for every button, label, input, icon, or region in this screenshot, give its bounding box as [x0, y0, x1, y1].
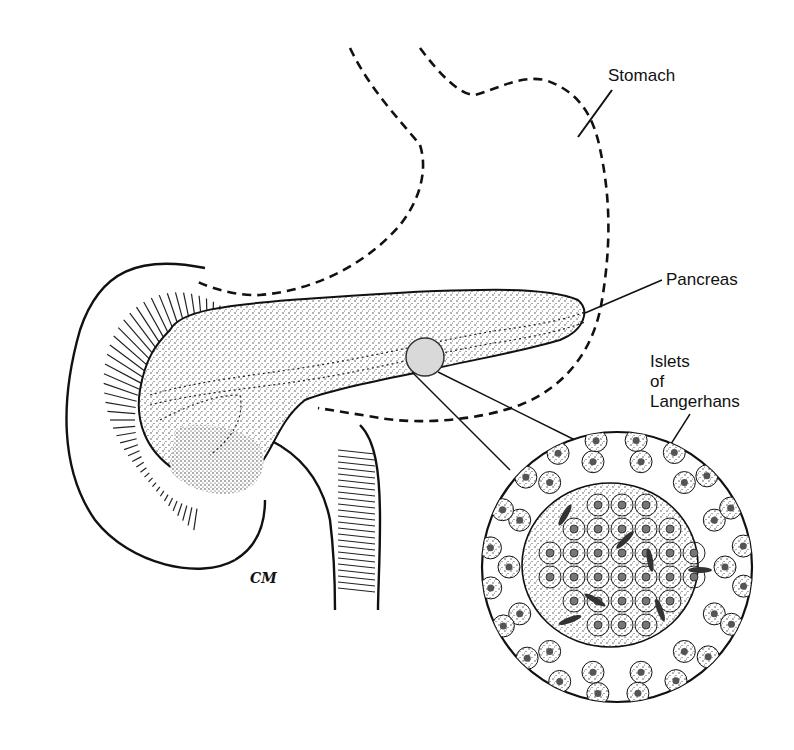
- cell-nucleus: [499, 506, 506, 513]
- cell-nucleus: [728, 621, 735, 628]
- hatch-line: [338, 456, 375, 460]
- cell-nucleus: [705, 653, 712, 660]
- cell-nucleus: [703, 472, 710, 479]
- cell-nucleus: [618, 525, 626, 533]
- cell-nucleus: [570, 525, 578, 533]
- hatch-line: [104, 374, 140, 390]
- cell-nucleus: [690, 573, 698, 581]
- hatch-line: [120, 439, 136, 443]
- hatch-line: [338, 522, 375, 526]
- hatch-line: [140, 468, 146, 472]
- cell-nucleus: [618, 501, 626, 509]
- cell-nucleus: [638, 458, 645, 465]
- magnified-islet: [479, 429, 754, 704]
- cell-nucleus: [487, 544, 494, 551]
- hatch-line: [338, 450, 375, 454]
- cell-nucleus: [589, 669, 596, 676]
- cell-nucleus: [546, 573, 554, 581]
- cell-nucleus: [642, 597, 650, 605]
- hatch-line: [105, 364, 141, 383]
- cell-nucleus: [556, 678, 563, 685]
- hatch-line: [136, 462, 143, 467]
- cell-nucleus: [740, 543, 747, 550]
- cell-nucleus: [711, 517, 718, 524]
- cell-nucleus: [516, 610, 523, 617]
- cell-nucleus: [666, 597, 674, 605]
- cell-nucleus: [594, 549, 602, 557]
- capillary: [688, 567, 712, 573]
- cell-nucleus: [500, 622, 507, 629]
- stomach-leader: [578, 90, 612, 137]
- hatch-line: [169, 498, 173, 506]
- hatch-line: [338, 492, 375, 496]
- cell-nucleus: [711, 610, 718, 617]
- hatch-line: [338, 474, 375, 478]
- hatch-line: [338, 468, 375, 472]
- hatch-line: [188, 507, 192, 525]
- hatch-line: [173, 501, 177, 511]
- cell-nucleus: [634, 690, 641, 697]
- cell-nucleus: [594, 525, 602, 533]
- hatch-line: [338, 510, 375, 514]
- cell-nucleus: [570, 549, 578, 557]
- hatch-line: [104, 393, 136, 401]
- hatch-line: [338, 558, 375, 562]
- hatch-line: [156, 487, 159, 492]
- hatch-line: [128, 451, 139, 456]
- hatch-line: [124, 445, 138, 450]
- hatch-line: [113, 426, 135, 428]
- cell-nucleus: [642, 621, 650, 629]
- cell-nucleus: [740, 583, 747, 590]
- hatch-line: [338, 540, 375, 544]
- label-stomach: Stomach: [608, 66, 675, 86]
- cell-nucleus: [633, 437, 640, 444]
- hatch-line: [338, 504, 375, 508]
- cell-nucleus: [681, 479, 688, 486]
- label-islets-line3: Langerhans: [650, 392, 770, 412]
- hatch-line: [338, 546, 375, 550]
- cell-nucleus: [642, 501, 650, 509]
- cell-nucleus: [638, 669, 645, 676]
- cell-nucleus: [642, 525, 650, 533]
- cell-nucleus: [666, 549, 674, 557]
- hatch-line: [164, 495, 168, 501]
- cell-nucleus: [570, 597, 578, 605]
- cell-nucleus: [618, 597, 626, 605]
- hatch-line: [338, 582, 375, 586]
- hatch-line: [338, 588, 375, 592]
- cell-nucleus: [546, 549, 554, 557]
- cell-nucleus: [672, 677, 679, 684]
- cell-nucleus: [671, 449, 678, 456]
- cell-nucleus: [555, 450, 562, 457]
- cell-nucleus: [593, 437, 600, 444]
- hatch-line: [144, 473, 149, 477]
- hatch-line: [148, 478, 152, 482]
- hatch-line: [194, 509, 197, 530]
- cell-nucleus: [666, 573, 674, 581]
- hatch-line: [178, 503, 182, 515]
- cell-nucleus: [618, 621, 626, 629]
- islet-highlight: [406, 338, 444, 376]
- label-pancreas: Pancreas: [666, 270, 738, 290]
- cell-nucleus: [589, 458, 596, 465]
- hatch-line: [106, 402, 136, 407]
- cell-nucleus: [487, 584, 494, 591]
- hatch-line: [183, 506, 187, 521]
- cell-nucleus: [642, 573, 650, 581]
- cell-nucleus: [522, 474, 529, 481]
- artist-signature: CM: [250, 568, 277, 588]
- cell-nucleus: [618, 549, 626, 557]
- hatch-line: [107, 411, 135, 413]
- hatch-line: [338, 570, 375, 574]
- cell-nucleus: [570, 573, 578, 581]
- hatch-line: [338, 486, 375, 490]
- hatch-line: [338, 534, 375, 538]
- hatch-line: [338, 564, 375, 568]
- cell-nucleus: [681, 648, 688, 655]
- cell-nucleus: [546, 479, 553, 486]
- hatch-line: [338, 552, 375, 556]
- label-islets-of-langerhans: Islets of Langerhans: [650, 352, 770, 412]
- hatch-line: [338, 480, 375, 484]
- hatch-line: [338, 576, 375, 580]
- cell-nucleus: [516, 517, 523, 524]
